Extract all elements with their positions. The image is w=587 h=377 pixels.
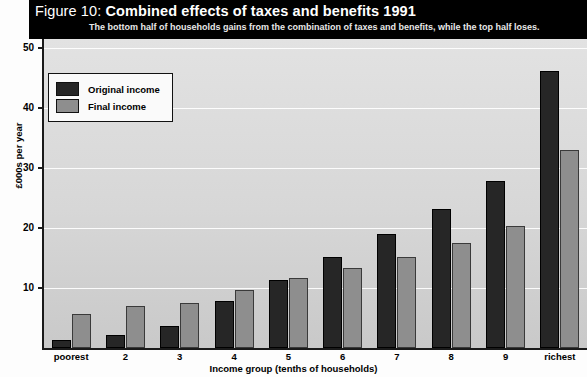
bar-group-5 — [269, 278, 308, 348]
y-tick-mark-20 — [38, 227, 43, 229]
bar-poorest-original-income — [52, 340, 71, 348]
bar-7-final-income — [397, 257, 416, 348]
x-axis-title: Income group (tenths of households) — [0, 363, 587, 374]
bar-9-final-income — [506, 226, 525, 348]
bar-richest-original-income — [540, 71, 559, 348]
bar-group-2 — [106, 306, 145, 348]
y-tick-label-20: 20 — [0, 222, 34, 233]
figure-subtitle: The bottom half of households gains from… — [89, 22, 540, 32]
bar-6-original-income — [323, 257, 342, 348]
y-tick-mark-30 — [38, 167, 43, 169]
bar-4-original-income — [215, 301, 234, 348]
bar-3-original-income — [160, 326, 179, 348]
bar-group-poorest — [52, 314, 91, 348]
bar-5-original-income — [269, 280, 288, 348]
banner-title-line: Figure 10: Combined effects of taxes and… — [35, 3, 416, 19]
bar-6-final-income — [343, 268, 362, 348]
y-tick-label-10: 10 — [0, 282, 34, 293]
bar-group-4 — [215, 290, 254, 348]
x-tick-label-richest: richest — [525, 351, 587, 362]
bar-group-7 — [377, 234, 416, 348]
figure-title: Combined effects of taxes and benefits 1… — [105, 3, 416, 19]
bar-8-final-income — [452, 243, 471, 348]
bar-group-richest — [540, 71, 579, 348]
figure-number: Figure 10: — [35, 3, 101, 19]
y-tick-mark-40 — [38, 107, 43, 109]
title-banner: Figure 10: Combined effects of taxes and… — [29, 0, 587, 39]
bar-group-6 — [323, 257, 362, 348]
y-axis-title: £000s per year — [13, 101, 24, 211]
y-tick-mark-10 — [38, 287, 43, 289]
bar-poorest-final-income — [72, 314, 91, 348]
bar-3-final-income — [180, 303, 199, 348]
bar-4-final-income — [235, 290, 254, 348]
bar-2-final-income — [126, 306, 145, 348]
bar-group-3 — [160, 303, 199, 348]
bar-2-original-income — [106, 335, 125, 348]
bar-richest-final-income — [560, 150, 579, 348]
figure-container: Figure 10: Combined effects of taxes and… — [0, 0, 587, 377]
bars-layer — [44, 39, 587, 348]
bar-9-original-income — [486, 181, 505, 348]
bar-5-final-income — [289, 278, 308, 348]
x-axis-line — [42, 348, 587, 350]
bar-group-9 — [486, 181, 525, 348]
y-tick-label-50: 50 — [0, 42, 34, 53]
bar-7-original-income — [377, 234, 396, 348]
bar-group-8 — [432, 209, 471, 348]
y-tick-mark-50 — [38, 47, 43, 49]
bar-8-original-income — [432, 209, 451, 348]
